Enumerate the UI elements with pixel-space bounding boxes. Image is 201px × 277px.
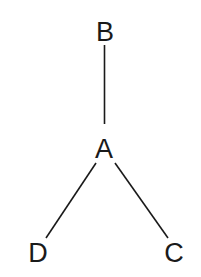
node-c: C — [164, 238, 184, 268]
node-a: A — [95, 134, 113, 164]
node-b: B — [96, 17, 114, 47]
node-d: D — [28, 238, 48, 268]
tree-diagram: B A D C — [0, 0, 201, 277]
edge-a-d — [46, 163, 96, 238]
edge-a-c — [115, 163, 168, 238]
